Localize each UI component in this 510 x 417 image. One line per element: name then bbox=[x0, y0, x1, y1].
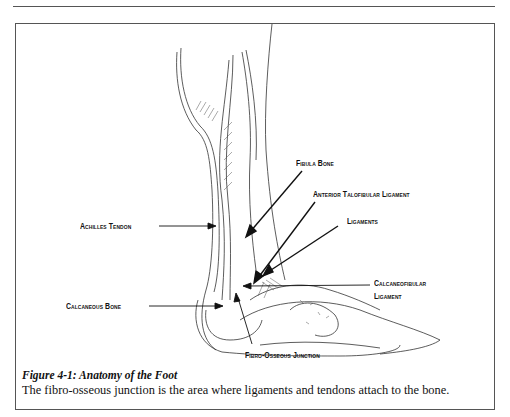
label-calcaneofibular-ligament-line1: Calcaneofibular bbox=[374, 278, 426, 288]
label-ligaments: Ligaments bbox=[347, 216, 378, 226]
label-calcaneofibular-ligament-line2: Ligament bbox=[374, 291, 402, 301]
figure-caption: Figure 4-1: Anatomy of the Foot The fibr… bbox=[22, 368, 492, 398]
caption-text: The fibro-osseous junction is the area w… bbox=[22, 382, 492, 398]
label-fibro-osseous-junction: Fibro-Osseous Junction bbox=[245, 350, 320, 360]
caption-title: Figure 4-1: Anatomy of the Foot bbox=[22, 368, 492, 382]
label-calcaneous-bone: Calcaneous Bone bbox=[66, 301, 121, 311]
label-anterior-talofibular-ligament: Anterior Talofibular Ligament bbox=[313, 189, 410, 199]
label-achilles-tendon: Achilles Tendon bbox=[80, 221, 131, 231]
label-fibula-bone: Fibula Bone bbox=[296, 158, 334, 168]
